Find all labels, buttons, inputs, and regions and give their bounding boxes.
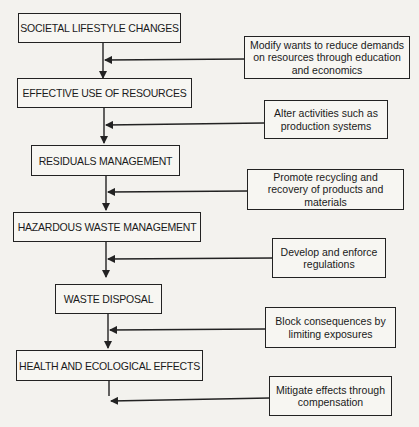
arrow-left — [106, 123, 264, 125]
action-box: Promote recycling and recovery of produc… — [247, 169, 404, 210]
action-box: Mitigate effects through compensation — [269, 376, 392, 416]
action-box: Modify wants to reduce demands on resour… — [244, 36, 410, 79]
arrow-left — [110, 329, 265, 330]
arrow-left — [105, 59, 245, 60]
stage-box: EFFECTIVE USE OF RESOURCES — [17, 78, 192, 108]
arrow-left — [111, 398, 270, 401]
action-box: Develop and enforce regulations — [272, 238, 386, 278]
arrow-left — [108, 191, 248, 192]
stage-box: HEALTH AND ECOLOGICAL EFFECTS — [16, 350, 203, 381]
action-box: Block consequences by limiting exposures — [265, 307, 396, 348]
stage-box: WASTE DISPOSAL — [55, 284, 162, 314]
arrow-left — [108, 258, 274, 259]
action-box: Alter activities such as production syst… — [264, 100, 388, 139]
stage-box: RESIDUALS MANAGEMENT — [31, 145, 180, 176]
stage-box: SOCIETAL LIFESTYLE CHANGES — [18, 13, 181, 43]
stage-box: HAZARDOUS WASTE MANAGEMENT — [13, 212, 201, 242]
